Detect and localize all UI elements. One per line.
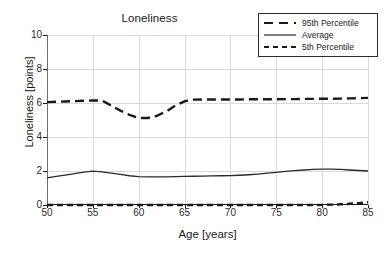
- legend-item[interactable]: 5th Percentile: [263, 41, 373, 53]
- y-tick-label: 10: [2, 30, 42, 40]
- x-tick-label: 65: [165, 207, 205, 218]
- y-axis-title: Loneliness [points]: [23, 27, 35, 177]
- x-tick-label: 80: [302, 207, 342, 218]
- gridline-vertical: [368, 35, 369, 205]
- y-tick-label: 6: [2, 98, 42, 108]
- x-tick-label: 60: [119, 207, 159, 218]
- chart-title: Loneliness: [47, 12, 252, 24]
- x-tick-label: 70: [210, 207, 250, 218]
- legend-line-swatch-icon: [263, 42, 297, 52]
- x-tick-label: 55: [73, 207, 113, 218]
- series-line-average: [47, 169, 368, 178]
- legend-item[interactable]: Average: [263, 29, 373, 41]
- y-tick-label: 2: [2, 166, 42, 176]
- x-tick-label: 85: [348, 207, 388, 218]
- series-line-95th-percentile: [47, 98, 368, 118]
- y-tick-label: 8: [2, 64, 42, 74]
- legend-item[interactable]: 95th Percentile: [263, 17, 373, 29]
- x-axis-tick-labels: 5055606570758085: [47, 207, 368, 223]
- legend-label: Average: [302, 31, 334, 40]
- plot-area: [47, 35, 368, 205]
- loneliness-chart-figure: Loneliness 0246810 5055606570758085 Lone…: [0, 0, 388, 258]
- y-tick-label: 4: [2, 132, 42, 142]
- series-line-5th-percentile: [47, 202, 368, 205]
- y-axis-tick-labels: 0246810: [0, 35, 42, 205]
- x-axis-title: Age [years]: [47, 228, 368, 240]
- chart-legend: 95th PercentileAverage5th Percentile: [258, 13, 378, 57]
- legend-line-swatch-icon: [263, 18, 297, 28]
- legend-label: 5th Percentile: [302, 43, 354, 52]
- legend-line-swatch-icon: [263, 30, 297, 40]
- x-tick-label: 50: [27, 207, 67, 218]
- x-tick-label: 75: [256, 207, 296, 218]
- series-lines: [47, 35, 368, 205]
- legend-label: 95th Percentile: [302, 19, 359, 28]
